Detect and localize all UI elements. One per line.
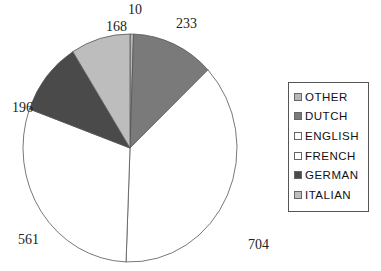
legend-item-italian: ITALIAN [289,185,368,205]
legend-label: ENGLISH [305,130,359,142]
data-label-italian: 168 [106,19,127,34]
legend-item-dutch: DUTCH [289,107,368,127]
legend-swatch [294,191,302,199]
data-label-french: 561 [18,232,39,247]
legend-item-german: GERMAN [289,165,368,185]
legend-swatch [294,171,302,179]
legend-label: FRENCH [305,150,356,162]
legend-item-english: ENGLISH [289,126,368,146]
legend-label: ITALIAN [305,189,351,201]
legend: OTHERDUTCHENGLISHFRENCHGERMANITALIAN [288,82,369,212]
legend-label: DUTCH [305,110,348,122]
legend-swatch [294,132,302,140]
legend-swatch [294,152,302,160]
legend-label: OTHER [305,91,348,103]
data-label-dutch: 233 [176,16,197,31]
legend-item-other: OTHER [289,87,368,107]
legend-swatch [294,93,302,101]
data-label-other: 10 [128,2,142,17]
legend-item-french: FRENCH [289,146,368,166]
legend-swatch [294,112,302,120]
data-label-german: 196 [12,100,33,115]
legend-label: GERMAN [305,169,358,181]
data-label-english: 704 [248,237,269,252]
